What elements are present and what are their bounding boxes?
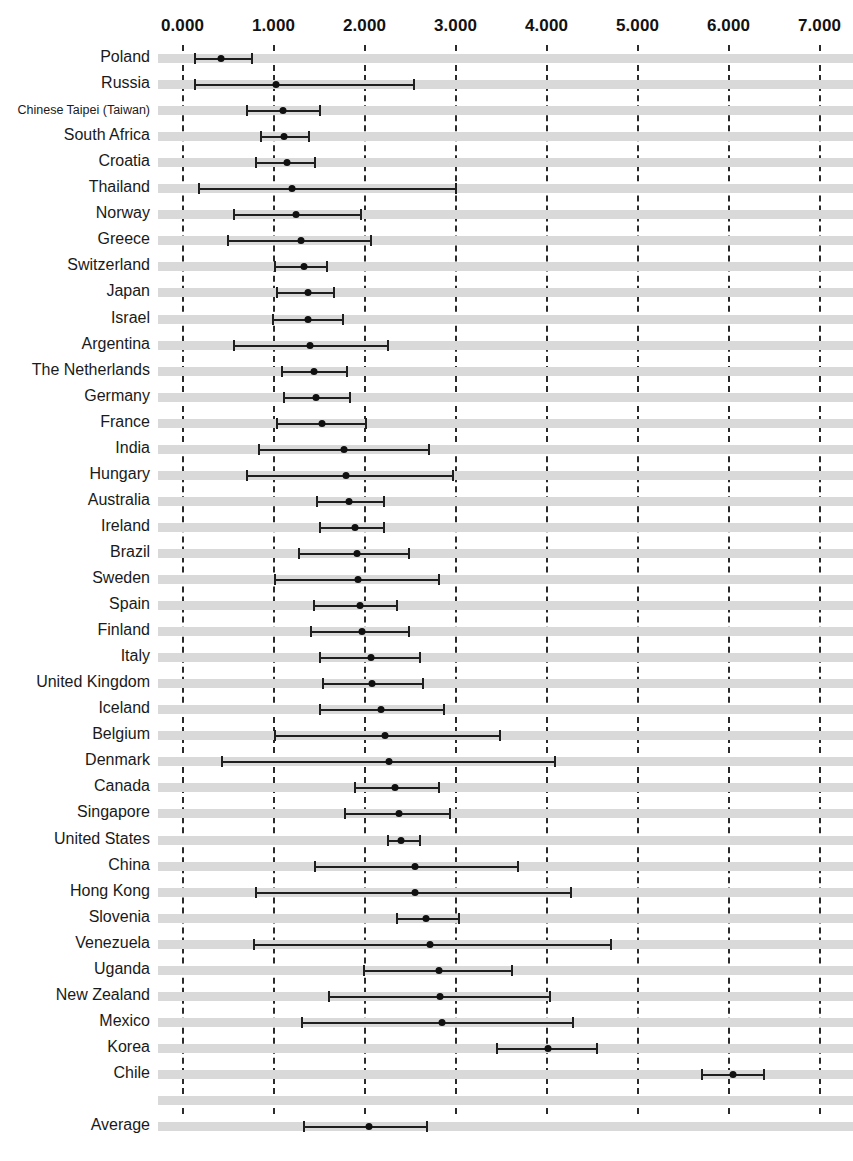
ci-cap-upper bbox=[413, 79, 415, 90]
plot-row: Canada bbox=[0, 774, 853, 800]
row-label: Norway bbox=[0, 203, 150, 223]
ci-cap-lower bbox=[253, 939, 255, 950]
ci-cap-lower bbox=[255, 887, 257, 898]
chart-page: 0.0001.0002.0003.0004.0005.0006.0007.000… bbox=[0, 0, 853, 1161]
ci-cap-upper bbox=[511, 965, 513, 976]
chart-title bbox=[150, 0, 710, 2]
point-marker bbox=[368, 680, 375, 687]
ci-cap-lower bbox=[221, 756, 223, 767]
point-marker bbox=[377, 706, 384, 713]
ci-cap-lower bbox=[319, 652, 321, 663]
row-label: Switzerland bbox=[0, 255, 150, 275]
row-band bbox=[158, 1122, 853, 1131]
point-marker bbox=[297, 237, 304, 244]
row-label: Average bbox=[0, 1115, 150, 1135]
x-tick-label: 0.000 bbox=[161, 16, 204, 36]
ci-cap-upper bbox=[349, 392, 351, 403]
ci-cap-upper bbox=[396, 600, 398, 611]
plot-row: Norway bbox=[0, 201, 853, 227]
plot-row: Brazil bbox=[0, 540, 853, 566]
ci-cap-upper bbox=[314, 157, 316, 168]
ci-cap-lower bbox=[387, 835, 389, 846]
point-marker bbox=[437, 993, 444, 1000]
point-marker bbox=[391, 784, 398, 791]
ci-cap-upper bbox=[455, 183, 457, 194]
ci-cap-upper bbox=[419, 652, 421, 663]
row-band bbox=[158, 1096, 853, 1105]
row-label: Korea bbox=[0, 1037, 150, 1057]
ci-cap-upper bbox=[319, 105, 321, 116]
ci-cap-lower bbox=[260, 131, 262, 142]
ci-cap-lower bbox=[313, 600, 315, 611]
row-label: Argentina bbox=[0, 334, 150, 354]
row-label: The Netherlands bbox=[0, 360, 150, 380]
point-marker bbox=[305, 316, 312, 323]
point-marker bbox=[367, 654, 374, 661]
ci-cap-lower bbox=[246, 470, 248, 481]
point-marker bbox=[356, 602, 363, 609]
x-axis-tick-labels: 0.0001.0002.0003.0004.0005.0006.0007.000 bbox=[0, 16, 853, 38]
ci-cap-lower bbox=[255, 157, 257, 168]
row-label: Hungary bbox=[0, 464, 150, 484]
ci-cap-upper bbox=[387, 340, 389, 351]
point-marker bbox=[273, 81, 280, 88]
plot-row: Chinese Taipei (Taiwan) bbox=[0, 97, 853, 123]
ci-cap-upper bbox=[346, 366, 348, 377]
plot-row: Mexico bbox=[0, 1009, 853, 1035]
plot-row: Argentina bbox=[0, 332, 853, 358]
row-label: Denmark bbox=[0, 750, 150, 770]
x-tick-label: 1.000 bbox=[252, 16, 295, 36]
ci-cap-lower bbox=[316, 496, 318, 507]
row-label: Poland bbox=[0, 47, 150, 67]
plot-row: India bbox=[0, 436, 853, 462]
ci-cap-upper bbox=[549, 991, 551, 1002]
point-marker bbox=[427, 941, 434, 948]
ci-cap-upper bbox=[342, 314, 344, 325]
row-label: India bbox=[0, 438, 150, 458]
row-band bbox=[158, 679, 853, 688]
ci-cap-lower bbox=[344, 808, 346, 819]
ci-cap-upper bbox=[438, 574, 440, 585]
plot-row: New Zealand bbox=[0, 983, 853, 1009]
point-marker bbox=[305, 289, 312, 296]
row-label: New Zealand bbox=[0, 985, 150, 1005]
plot-row: Switzerland bbox=[0, 253, 853, 279]
ci-cap-lower bbox=[233, 209, 235, 220]
row-label: Croatia bbox=[0, 151, 150, 171]
ci-cap-lower bbox=[198, 183, 200, 194]
row-band bbox=[158, 367, 853, 376]
x-tick-label: 5.000 bbox=[616, 16, 659, 36]
plot-row: France bbox=[0, 410, 853, 436]
ci-cap-upper bbox=[370, 235, 372, 246]
ci-cap-lower bbox=[319, 704, 321, 715]
point-marker bbox=[354, 550, 361, 557]
row-label: South Africa bbox=[0, 125, 150, 145]
row-band bbox=[158, 315, 853, 324]
ci-cap-lower bbox=[276, 418, 278, 429]
row-band bbox=[158, 627, 853, 636]
plot-row: Denmark bbox=[0, 748, 853, 774]
ci-cap-lower bbox=[314, 861, 316, 872]
plot-row: Finland bbox=[0, 618, 853, 644]
ci-cap-lower bbox=[281, 366, 283, 377]
x-tick-label: 7.000 bbox=[798, 16, 841, 36]
ci-cap-upper bbox=[408, 626, 410, 637]
row-band bbox=[158, 601, 853, 610]
point-marker bbox=[545, 1045, 552, 1052]
point-marker bbox=[293, 211, 300, 218]
confidence-interval-line bbox=[246, 475, 453, 477]
row-label: Iceland bbox=[0, 698, 150, 718]
plot-row: South Africa bbox=[0, 123, 853, 149]
point-marker bbox=[281, 133, 288, 140]
point-marker bbox=[358, 628, 365, 635]
x-tick-label: 2.000 bbox=[343, 16, 386, 36]
x-tick-label: 6.000 bbox=[707, 16, 750, 36]
plot-row: Korea bbox=[0, 1035, 853, 1061]
confidence-interval-line bbox=[194, 84, 414, 86]
ci-cap-upper bbox=[554, 756, 556, 767]
ci-cap-upper bbox=[572, 1017, 574, 1028]
ci-cap-lower bbox=[319, 522, 321, 533]
ci-cap-lower bbox=[354, 782, 356, 793]
row-label: Greece bbox=[0, 229, 150, 249]
ci-cap-lower bbox=[274, 730, 276, 741]
